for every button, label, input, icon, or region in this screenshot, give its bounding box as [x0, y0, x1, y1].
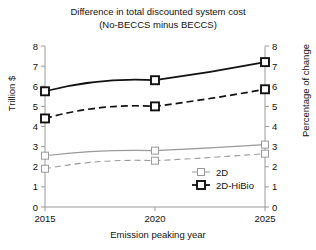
series-marker: [262, 141, 269, 148]
y-tick-label-right: 3: [272, 141, 277, 152]
legend-label: 2D-HiBio: [216, 180, 254, 191]
y-tick-label-right: 4: [272, 121, 277, 132]
y-tick-label-right: 0: [272, 202, 277, 213]
plot-area: 012345678012345678201520202025 2D2D-HiBi…: [0, 0, 316, 250]
y-tick-label-right: 1: [272, 181, 277, 192]
x-axis-title: Emission peaking year: [0, 229, 316, 240]
x-tick-label: 2015: [34, 213, 55, 224]
series-marker: [151, 102, 159, 110]
series-marker: [41, 87, 49, 95]
y-tick-label-right: 8: [272, 41, 277, 52]
series-marker: [261, 85, 269, 93]
y-tick-label-left: 4: [33, 121, 38, 132]
series-marker: [41, 114, 49, 122]
chart-title-line-2: (No-BECCS minus BECCS): [0, 19, 316, 32]
series-marker: [151, 76, 159, 84]
series-marker: [152, 157, 159, 164]
y-tick-label-right: 5: [272, 101, 277, 112]
legend-marker: [198, 169, 205, 176]
y-tick-label-left: 8: [33, 41, 38, 52]
chart-title: Difference in total discounted system co…: [0, 6, 316, 31]
y-tick-label-left: 6: [33, 81, 38, 92]
y-axis-right-title: Percentage of change: [300, 31, 311, 151]
series-marker: [261, 58, 269, 66]
y-tick-label-left: 2: [33, 161, 38, 172]
axes-layer: 012345678012345678201520202025: [33, 41, 278, 225]
y-tick-label-left: 7: [33, 61, 38, 72]
legend-marker: [197, 181, 205, 189]
x-tick-label: 2025: [254, 213, 275, 224]
legend-label: 2D: [216, 167, 228, 178]
y-tick-label-right: 6: [272, 81, 277, 92]
y-tick-label-right: 2: [272, 161, 277, 172]
legend-layer: 2D2D-HiBio: [192, 167, 254, 191]
chart-title-line-1: Difference in total discounted system co…: [0, 6, 316, 19]
y-tick-label-left: 5: [33, 101, 38, 112]
series-marker: [152, 147, 159, 154]
y-tick-label-right: 7: [272, 61, 277, 72]
y-tick-label-left: 0: [33, 202, 38, 213]
series-layer: [41, 58, 269, 172]
series-marker: [42, 165, 49, 172]
chart-figure: Difference in total discounted system co…: [0, 0, 316, 250]
y-tick-label-left: 1: [33, 181, 38, 192]
x-tick-label: 2020: [144, 213, 165, 224]
series-marker: [42, 152, 49, 159]
series-marker: [262, 150, 269, 157]
y-tick-label-left: 3: [33, 141, 38, 152]
y-axis-left-title: Trillion $: [6, 44, 17, 144]
